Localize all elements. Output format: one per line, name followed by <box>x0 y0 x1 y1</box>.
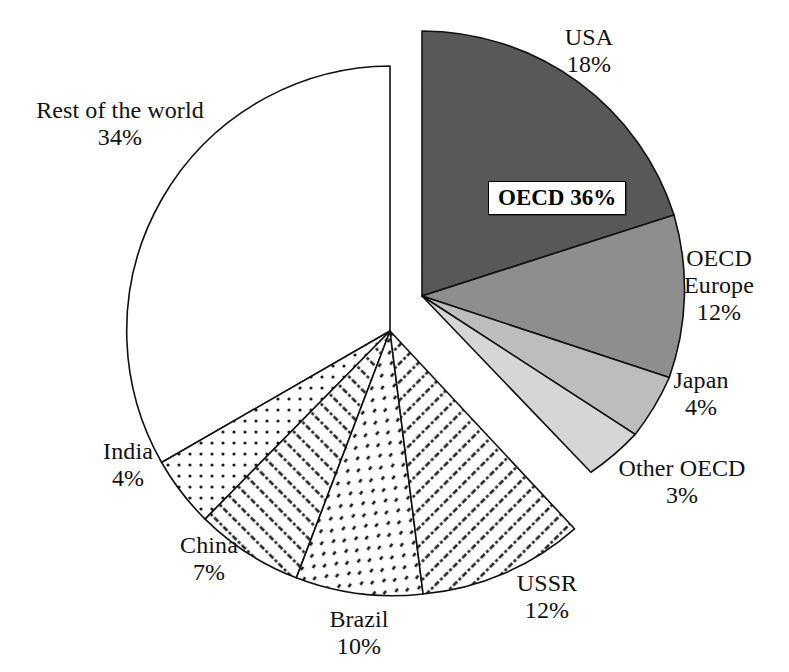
label-other-oecd-pct: 3% <box>598 482 766 509</box>
label-brazil: Brazil 10% <box>305 606 413 660</box>
label-rest-of-the-world-pct: 34% <box>15 124 225 151</box>
label-brazil-pct: 10% <box>305 633 413 660</box>
oecd-callout-name: OECD <box>498 185 564 210</box>
label-india-name: India <box>80 438 176 465</box>
label-japan-name: Japan <box>655 367 747 394</box>
label-other-oecd: Other OECD 3% <box>598 455 766 509</box>
label-oecd-europe-name-line1: OECD <box>664 245 774 272</box>
label-oecd-europe-name-line2: Europe <box>664 272 774 299</box>
label-japan: Japan 4% <box>655 367 747 421</box>
label-india-pct: 4% <box>80 465 176 492</box>
label-other-oecd-name: Other OECD <box>598 455 766 482</box>
oecd-callout-pct: 36% <box>570 185 616 210</box>
label-usa-pct: 18% <box>534 51 644 78</box>
label-brazil-name: Brazil <box>305 606 413 633</box>
label-china-name: China <box>155 532 263 559</box>
oecd-group-callout: OECD 36% <box>488 181 626 215</box>
label-rest-of-the-world: Rest of the world 34% <box>15 97 225 151</box>
label-oecd-europe: OECD Europe 12% <box>664 245 774 326</box>
label-china-pct: 7% <box>155 559 263 586</box>
label-usa-name: USA <box>534 24 644 51</box>
label-china: China 7% <box>155 532 263 586</box>
pie-chart: USA 18% OECD Europe 12% Japan 4% Other O… <box>0 0 789 672</box>
label-india: India 4% <box>80 438 176 492</box>
label-ussr-pct: 12% <box>495 597 599 624</box>
label-japan-pct: 4% <box>655 394 747 421</box>
label-oecd-europe-pct: 12% <box>664 299 774 326</box>
label-ussr-name: USSR <box>495 570 599 597</box>
label-ussr: USSR 12% <box>495 570 599 624</box>
label-usa: USA 18% <box>534 24 644 78</box>
label-rest-of-the-world-name: Rest of the world <box>15 97 225 124</box>
